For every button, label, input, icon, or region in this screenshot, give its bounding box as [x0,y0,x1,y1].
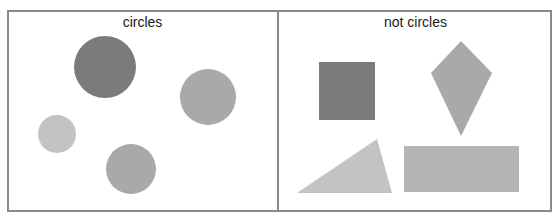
circles-panel [38,36,236,194]
triangle-shape [297,139,392,193]
circle-shape [180,69,236,125]
circle-shape [74,36,136,98]
circle-shape [38,115,76,153]
shapes-canvas [0,0,556,218]
not-circles-panel [297,41,519,193]
square-shape [319,62,375,120]
kite-shape [431,41,492,136]
rectangle-shape [404,146,519,192]
circle-shape [106,144,156,194]
